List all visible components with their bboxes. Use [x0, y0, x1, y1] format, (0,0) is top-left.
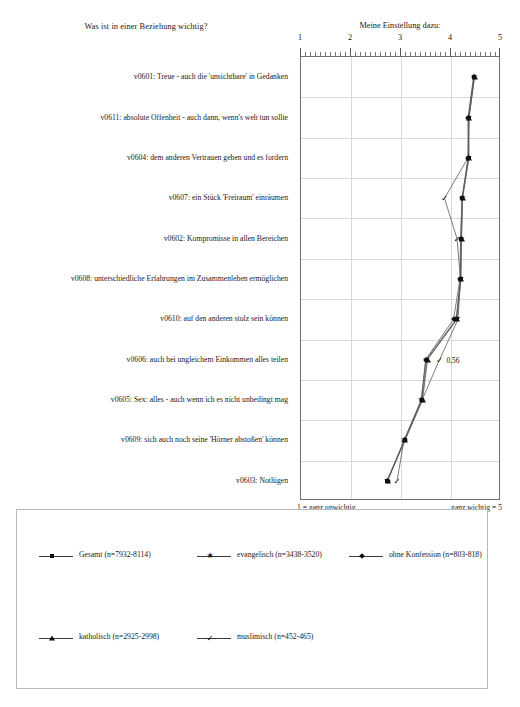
category-label-list: v0601: Treue - auch die 'unsichtbare' in… — [0, 56, 292, 500]
square-marker — [50, 554, 54, 558]
legend-line-swatch — [349, 556, 383, 557]
legend-line-swatch — [39, 556, 73, 557]
legend-label: katholisch (n=2925-2998) — [79, 632, 159, 641]
legend-label: evangelisch (n=3438-3520) — [237, 550, 322, 559]
legend-line-swatch — [39, 638, 73, 639]
x-axis-tick-5: 5 — [492, 33, 508, 42]
left-chart-title: Was ist in einer Beziehung wichtig? — [0, 22, 292, 31]
x-axis-tick-3: 3 — [392, 33, 408, 42]
x-axis-ruler — [300, 48, 500, 56]
x-axis-tick-2: 2 — [342, 33, 358, 42]
x-axis-tick-4: 4 — [442, 33, 458, 42]
category-label: v0601: Treue - auch die 'unsichtbare' in… — [134, 72, 288, 81]
x-axis-tick-1: 1 — [292, 33, 308, 42]
legend-label: muslimisch (n=452-465) — [237, 632, 313, 641]
category-label: v0609: sich auch noch seine 'Hörner abst… — [121, 435, 288, 444]
category-label: v0606: auch bei ungleichem Einkommen all… — [127, 354, 288, 363]
legend-line-swatch — [197, 638, 231, 639]
axis-tick-mark — [450, 48, 451, 56]
diamond-marker — [359, 553, 365, 559]
category-label: v0610: auf den anderen stolz sein können — [160, 314, 288, 323]
point-value-annotation: 0,56 — [447, 355, 460, 364]
axis-tick-mark — [300, 48, 301, 56]
chart-plot-area: ★★★★★★★★★★★✓✓✓✓✓✓✓✓✓✓✓0,56 — [300, 56, 500, 500]
triangle-marker — [385, 478, 391, 483]
category-label: v0607: ein Stück 'Freiraum' einräumen — [169, 193, 288, 202]
category-label: v0604: dem anderen Vertrauen geben und e… — [127, 152, 288, 161]
series-markers: ★★★★★★★★★★★✓✓✓✓✓✓✓✓✓✓✓0,56 — [301, 57, 501, 501]
category-label: v0603: Notlügen — [236, 475, 288, 484]
axis-tick-mark — [400, 48, 401, 56]
axis-tick-mark — [499, 48, 500, 56]
triangle-marker — [460, 196, 466, 201]
triangle-marker — [49, 636, 55, 641]
category-label: v0611: absolute Offenheit - auch dann, w… — [100, 112, 288, 121]
legend-line-swatch — [197, 556, 231, 557]
chart-legend: Gesamt (n=7932-8114)★evangelisch (n=3438… — [16, 509, 488, 689]
category-label: v0608: unterschiedliche Erfahrungen im Z… — [71, 274, 288, 283]
axis-tick-mark — [350, 48, 351, 56]
x-axis-tick-labels: 12345 — [292, 33, 508, 45]
triangle-marker — [425, 357, 431, 362]
category-label: v0605: Sex: alles - auch wenn ich es nic… — [111, 395, 288, 404]
legend-label: Gesamt (n=7932-8114) — [79, 550, 151, 559]
legend-label: ohne Konfession (n=803-818) — [389, 550, 482, 559]
category-label: v0602: Kompromisse in allen Bereichen — [164, 233, 288, 242]
right-chart-title: Meine Einstellung dazu: — [300, 21, 500, 30]
